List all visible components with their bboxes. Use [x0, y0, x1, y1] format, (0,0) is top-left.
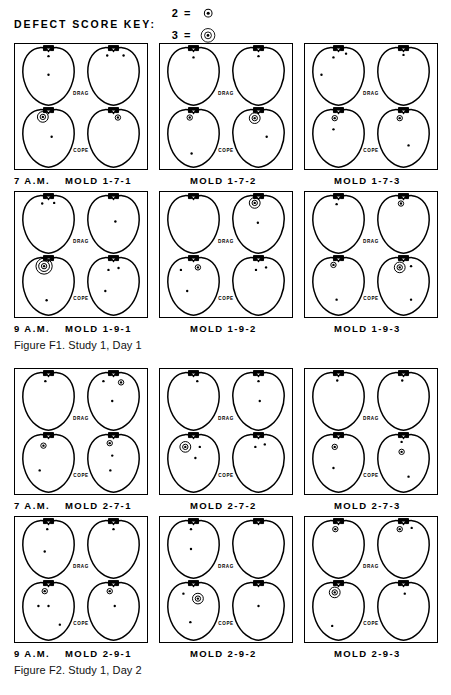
mold-panel-inner: DRAGCOPE: [15, 44, 147, 169]
panel-caption: MOLD 2-9-3: [334, 644, 401, 662]
mold-panel[interactable]: DRAGCOPE: [159, 191, 293, 318]
casting-drag-left[interactable]: [17, 370, 80, 432]
zone-label-drag: DRAG: [363, 239, 379, 244]
panel-caption: MOLD 1-9-2: [190, 319, 257, 337]
casting-cope-left[interactable]: [17, 580, 80, 642]
defect-mark-score-1: [114, 605, 116, 607]
casting-outline: [233, 583, 284, 641]
casting-drag-left[interactable]: [162, 370, 225, 432]
panel-caption: 9 A.M.MOLD 2-9-1: [14, 644, 132, 662]
casting-outline: [313, 196, 364, 254]
casting-drag-right[interactable]: [372, 45, 435, 107]
sprue-tab-icon: [188, 256, 198, 261]
defect-mark-score-1: [190, 152, 192, 154]
casting-cope-right[interactable]: [372, 432, 435, 494]
casting-outline: [88, 435, 139, 493]
casting-drag-right[interactable]: [82, 370, 145, 432]
zone-label-drag: DRAG: [218, 91, 234, 96]
casting-drag-left[interactable]: [17, 518, 80, 580]
casting-drag-right[interactable]: [372, 370, 435, 432]
casting-cope-left[interactable]: [307, 107, 370, 169]
casting-cope-right[interactable]: [82, 580, 145, 642]
casting-drag-left[interactable]: [17, 193, 80, 255]
casting-drag-right[interactable]: [372, 518, 435, 580]
casting-drag-left[interactable]: [307, 193, 370, 255]
casting-drag-right[interactable]: [227, 518, 290, 580]
casting-cope-left[interactable]: [162, 580, 225, 642]
defect-mark-score-1: [182, 592, 184, 594]
casting-drag-left[interactable]: [162, 193, 225, 255]
casting-drag-left[interactable]: [162, 518, 225, 580]
defect-mark-score-1: [114, 220, 116, 222]
figure-caption: Figure F1. Study 1, Day 1: [14, 339, 142, 351]
casting-cope-left[interactable]: [162, 107, 225, 169]
casting-cope-left[interactable]: [162, 432, 225, 494]
mold-panel[interactable]: DRAGCOPE: [14, 43, 148, 170]
casting-drag-left[interactable]: [307, 45, 370, 107]
casting-drag-right[interactable]: [82, 518, 145, 580]
casting-drag-right[interactable]: [82, 45, 145, 107]
defect-key-equals: =: [184, 7, 191, 19]
casting-cope-left[interactable]: [17, 107, 80, 169]
mold-panel[interactable]: DRAGCOPE: [159, 368, 293, 495]
mold-panel[interactable]: DRAGCOPE: [304, 191, 438, 318]
zone-label-cope: COPE: [218, 621, 233, 626]
mold-panel[interactable]: DRAGCOPE: [159, 43, 293, 170]
mold-panel[interactable]: DRAGCOPE: [304, 368, 438, 495]
mold-panel[interactable]: DRAGCOPE: [159, 516, 293, 643]
casting-cope-right[interactable]: [372, 255, 435, 317]
mold-panel[interactable]: DRAGCOPE: [14, 516, 148, 643]
sprue-tab-icon: [333, 108, 343, 113]
casting-drag-right[interactable]: [372, 193, 435, 255]
sprue-tab-icon: [188, 108, 198, 113]
defect-mark-score-1: [47, 605, 49, 607]
casting-drag-left[interactable]: [17, 45, 80, 107]
casting-drag-right[interactable]: [227, 370, 290, 432]
defect-mark-score-1: [111, 454, 113, 456]
mold-panel[interactable]: DRAGCOPE: [14, 191, 148, 318]
defect-mark-score-1: [192, 56, 194, 58]
casting-outline: [313, 435, 364, 493]
casting-drag-right[interactable]: [82, 193, 145, 255]
panel-caption-mold-label: MOLD 1-9-1: [65, 323, 132, 334]
panel-caption-mold-label: MOLD 2-9-1: [65, 648, 132, 659]
casting-outline: [313, 373, 364, 431]
casting-cope-right[interactable]: [227, 255, 290, 317]
casting-cope-left[interactable]: [17, 255, 80, 317]
mold-panel[interactable]: DRAGCOPE: [304, 43, 438, 170]
defect-mark-score-1: [104, 290, 106, 292]
sprue-tab-icon: [108, 519, 118, 524]
casting-cope-left[interactable]: [307, 580, 370, 642]
casting-cope-right[interactable]: [82, 107, 145, 169]
casting-cope-left[interactable]: [307, 255, 370, 317]
casting-drag-left[interactable]: [162, 45, 225, 107]
casting-cope-left[interactable]: [162, 255, 225, 317]
panel-caption-mold-label: MOLD 1-9-2: [190, 323, 257, 334]
panel-caption: 7 A.M.MOLD 1-7-1: [14, 171, 132, 189]
casting-drag-right[interactable]: [227, 193, 290, 255]
mold-panel[interactable]: DRAGCOPE: [14, 368, 148, 495]
casting-cope-right[interactable]: [227, 107, 290, 169]
casting-outline: [378, 435, 429, 493]
casting-cope-right[interactable]: [227, 580, 290, 642]
casting-cope-left[interactable]: [17, 432, 80, 494]
sprue-tab-icon: [108, 46, 118, 51]
casting-cope-right[interactable]: [227, 432, 290, 494]
casting-cope-right[interactable]: [82, 255, 145, 317]
mold-panel[interactable]: DRAGCOPE: [304, 516, 438, 643]
casting-drag-left[interactable]: [307, 370, 370, 432]
sprue-tab-icon: [333, 46, 343, 51]
casting-cope-right[interactable]: [372, 107, 435, 169]
panel-caption-time: 9 A.M.: [14, 648, 50, 659]
casting-cope-right[interactable]: [82, 432, 145, 494]
sprue-tab-icon: [398, 108, 408, 113]
casting-cope-right[interactable]: [372, 580, 435, 642]
casting-cope-left[interactable]: [307, 432, 370, 494]
defect-mark-score-1: [331, 625, 333, 627]
panel-caption: MOLD 1-9-3: [334, 319, 401, 337]
casting-drag-left[interactable]: [307, 518, 370, 580]
casting-drag-right[interactable]: [227, 45, 290, 107]
sprue-tab-icon: [398, 581, 408, 586]
sprue-tab-icon: [188, 46, 198, 51]
sprue-tab-icon: [333, 581, 343, 586]
